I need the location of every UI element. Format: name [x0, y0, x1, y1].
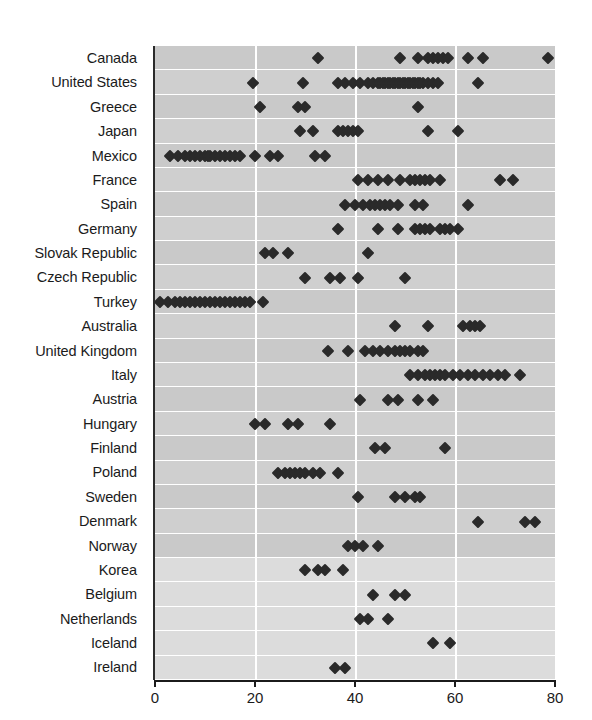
x-axis-tick-label: 0	[151, 689, 159, 706]
category-label: Belgium	[0, 582, 146, 606]
category-label: France	[0, 168, 146, 192]
category-label: Italy	[0, 363, 146, 387]
y-axis-line	[153, 46, 155, 680]
x-axis-tick	[454, 680, 456, 687]
category-label: Korea	[0, 558, 146, 582]
category-label: Japan	[0, 119, 146, 143]
category-label: United States	[0, 70, 146, 94]
x-axis-tick	[154, 680, 156, 687]
category-label: Czech Republic	[0, 265, 146, 289]
x-axis-tick-label: 80	[547, 689, 564, 706]
category-label: Spain	[0, 192, 146, 216]
dot-plot-figure: CanadaUnited StatesGreeceJapanMexicoFran…	[0, 0, 592, 720]
vertical-gridline	[455, 46, 457, 680]
category-label: Netherlands	[0, 607, 146, 631]
plot-panel	[155, 46, 555, 680]
category-label: Denmark	[0, 509, 146, 533]
category-label: Mexico	[0, 144, 146, 168]
category-label: Slovak Republic	[0, 241, 146, 265]
x-axis-tick-label: 40	[347, 689, 364, 706]
category-label: Ireland	[0, 655, 146, 679]
x-axis-tick-label: 20	[247, 689, 264, 706]
category-axis-labels: CanadaUnited StatesGreeceJapanMexicoFran…	[0, 46, 146, 680]
category-label: Iceland	[0, 631, 146, 655]
category-label: Finland	[0, 436, 146, 460]
vertical-gridline	[355, 46, 357, 680]
category-label: Canada	[0, 46, 146, 70]
x-axis-tick	[354, 680, 356, 687]
category-label: Greece	[0, 95, 146, 119]
category-label: Australia	[0, 314, 146, 338]
category-label: Poland	[0, 460, 146, 484]
x-axis-tick-label: 60	[447, 689, 464, 706]
category-label: Germany	[0, 217, 146, 241]
category-label: Austria	[0, 387, 146, 411]
vertical-gridline	[255, 46, 257, 680]
category-label: Sweden	[0, 485, 146, 509]
category-label: Turkey	[0, 290, 146, 314]
category-label: Norway	[0, 534, 146, 558]
category-label: Hungary	[0, 412, 146, 436]
x-axis-tick	[554, 680, 556, 687]
x-axis-tick	[254, 680, 256, 687]
category-label: United Kingdom	[0, 339, 146, 363]
